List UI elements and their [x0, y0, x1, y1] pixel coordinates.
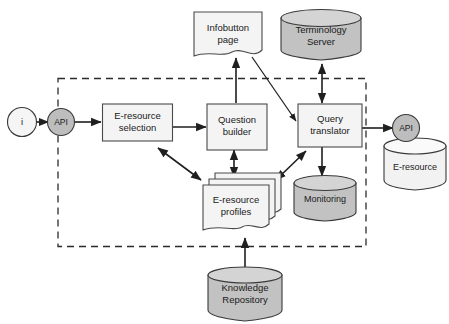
user-label: i	[21, 116, 23, 127]
node-question-builder[interactable]: Question builder	[207, 104, 267, 150]
node-knowledge-repository[interactable]: Knowledge Repository	[208, 267, 282, 321]
node-infobutton-page[interactable]: Infobutton page	[194, 12, 262, 56]
monitoring-label: Monitoring	[304, 194, 346, 204]
eresource-db-label: E-resource	[393, 162, 437, 172]
node-eresource-selection[interactable]: E-resource selection	[103, 104, 173, 141]
diagram-canvas: i API E-resource selection Question buil…	[0, 0, 449, 324]
terminology-server-label-line1: Terminology	[295, 24, 346, 35]
node-user[interactable]: i	[8, 108, 37, 137]
node-eresource-profiles[interactable]: E-resource profiles	[203, 173, 281, 230]
infobutton-page-label-line1: Infobutton	[207, 22, 249, 33]
question-builder-label-line2: builder	[223, 126, 252, 137]
monitoring-cylinder-top	[294, 176, 356, 191]
node-api-in[interactable]: API	[48, 109, 75, 136]
node-eresource-db[interactable]: E-resource	[384, 138, 446, 190]
architecture-diagram: i API E-resource selection Question buil…	[0, 0, 449, 324]
knowledge-repository-label-line1: Knowledge	[221, 282, 268, 293]
query-translator-label-line1: Query	[317, 113, 343, 124]
query-translator-label-line2: translator	[310, 125, 350, 136]
api-out-label: API	[399, 123, 413, 133]
knowledge-repository-label-line2: Repository	[222, 294, 268, 305]
api-in-label: API	[54, 117, 68, 127]
node-terminology-server[interactable]: Terminology Server	[281, 10, 361, 61]
eresource-db-cylinder-top	[384, 138, 446, 154]
eresource-selection-label-line2: selection	[119, 122, 157, 133]
eresource-profiles-label-line2: profiles	[221, 206, 252, 217]
node-monitoring[interactable]: Monitoring	[294, 176, 356, 222]
terminology-server-label-line2: Server	[307, 36, 335, 47]
eresource-profiles-label-line1: E-resource	[213, 194, 259, 205]
edge-eresource-selection-eresource-profiles	[158, 148, 201, 180]
question-builder-label-line1: Question	[218, 114, 256, 125]
node-api-out[interactable]: API	[393, 115, 420, 142]
infobutton-page-label-line2: page	[217, 34, 238, 45]
eresource-selection-label-line1: E-resource	[114, 110, 160, 121]
node-query-translator[interactable]: Query translator	[298, 104, 362, 147]
